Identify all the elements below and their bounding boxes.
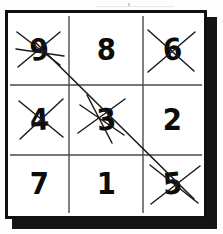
digit-value: 7 bbox=[30, 169, 49, 199]
digit-value: 2 bbox=[163, 105, 182, 135]
digit-value: 4 bbox=[29, 104, 50, 135]
grid-cell-r1c2[interactable]: 2 bbox=[143, 85, 202, 155]
number-grid-card: 9 8 6 4 3 2 7 1 bbox=[5, 10, 207, 219]
scan-smudge bbox=[96, 6, 174, 7]
scanned-worksheet-image: 9 8 6 4 3 2 7 1 bbox=[0, 0, 223, 234]
grid-cell-r2c0[interactable]: 7 bbox=[10, 155, 69, 213]
grid-cell-r0c1[interactable]: 8 bbox=[69, 15, 143, 85]
digit-value: 9 bbox=[28, 34, 50, 66]
grid-cell-r1c1[interactable]: 3 bbox=[69, 85, 143, 155]
digit-value: 3 bbox=[95, 104, 117, 136]
scan-speck bbox=[128, 3, 130, 6]
digit-value: 6 bbox=[162, 34, 184, 66]
digit-value: 8 bbox=[96, 35, 115, 65]
grid-cells: 9 8 6 4 3 2 7 1 bbox=[8, 13, 204, 216]
grid-cell-r2c2[interactable]: 5 bbox=[143, 155, 202, 213]
grid-cell-r1c0[interactable]: 4 bbox=[10, 85, 69, 155]
grid-cell-r2c1[interactable]: 1 bbox=[69, 155, 143, 213]
digit-value: 1 bbox=[96, 169, 115, 199]
grid-cell-r0c0[interactable]: 9 bbox=[10, 15, 69, 85]
grid-cell-r0c2[interactable]: 6 bbox=[143, 15, 202, 85]
digit-value: 5 bbox=[162, 168, 184, 200]
